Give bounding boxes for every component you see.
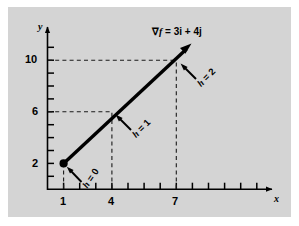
x-axis-label: x [274,194,279,204]
diagram-canvas [0,0,299,226]
base-point-marker [60,159,68,167]
figure-gradient-ray: 10 6 2 1 4 7 y x ∇f = 3i + 4j h = 0 h = … [0,0,299,226]
guide-lines [48,60,176,189]
pointer-arrow-h2 [181,64,196,79]
y-axis-label: y [38,22,42,32]
x-tick-label-1: 1 [60,196,66,207]
nabla-icon: ∇ [152,26,159,37]
pointer-arrow-h1 [116,115,131,130]
pointer-arrow-h0 [67,167,82,182]
gradient-equation-label: ∇f = 3i + 4j [152,27,202,37]
x-tick-label-4: 4 [108,196,114,207]
gradient-ray [64,44,192,164]
x-tick-label-7: 7 [172,196,178,207]
y-tick-label-2: 2 [32,158,38,169]
y-tick-label-6: 6 [32,106,38,117]
y-tick-label-10: 10 [25,54,37,65]
gradient-equation-rhs: = 3i + 4j [162,26,201,37]
